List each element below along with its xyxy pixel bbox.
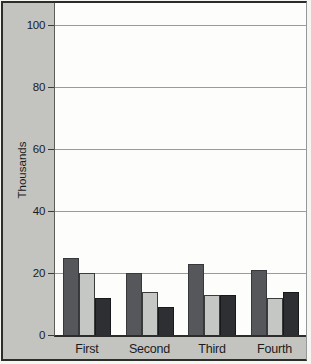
- x-axis-label: Third: [177, 342, 247, 356]
- bar-series-1-dark-gray: [63, 258, 79, 336]
- y-tick-mark: [48, 87, 54, 88]
- bar-series-2-light-gray: [142, 292, 158, 335]
- bar-series-1-dark-gray: [251, 270, 267, 335]
- bar-chart-figure: Thousands 020406080100FirstSecondThirdFo…: [0, 0, 311, 364]
- bar-series-3-black: [220, 295, 236, 335]
- bar-series-3-black: [158, 307, 174, 335]
- x-axis-label: Second: [115, 342, 185, 356]
- y-tick-label: 0: [9, 329, 45, 342]
- y-tick-label: 40: [9, 205, 45, 218]
- gridline: [55, 211, 306, 212]
- bar-series-2-light-gray: [79, 273, 95, 335]
- y-tick-mark: [48, 149, 54, 150]
- gridline: [55, 87, 306, 88]
- x-axis-label: First: [52, 342, 122, 356]
- y-tick-mark: [48, 25, 54, 26]
- gridline: [55, 25, 306, 26]
- bar-series-2-light-gray: [204, 295, 220, 335]
- y-tick-label: 100: [9, 19, 45, 32]
- y-tick-label: 20: [9, 267, 45, 280]
- bar-series-2-light-gray: [267, 298, 283, 335]
- y-tick-mark: [48, 211, 54, 212]
- y-tick-mark: [48, 273, 54, 274]
- y-tick-mark: [48, 335, 54, 336]
- chart-card: Thousands 020406080100FirstSecondThirdFo…: [1, 1, 307, 361]
- bar-series-1-dark-gray: [126, 273, 142, 335]
- bar-series-1-dark-gray: [188, 264, 204, 335]
- y-tick-label: 60: [9, 143, 45, 156]
- y-tick-label: 80: [9, 81, 45, 94]
- gridline: [55, 149, 306, 150]
- x-axis-label: Fourth: [240, 342, 310, 356]
- bar-series-3-black: [283, 292, 299, 335]
- plot-area: [54, 3, 306, 337]
- bar-series-3-black: [95, 298, 111, 335]
